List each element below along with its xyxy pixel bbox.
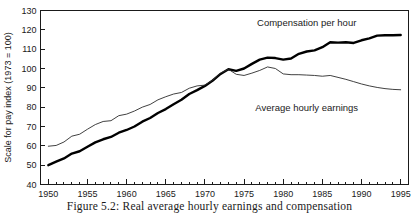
- series-annotation-average-hourly-earnings: Average hourly earnings: [255, 102, 358, 113]
- y-tick-label: 100: [21, 64, 36, 74]
- x-tick-label: 1995: [391, 189, 411, 199]
- x-tick-label: 1965: [156, 189, 176, 199]
- x-tick-label: 1980: [273, 189, 293, 199]
- x-tick-label: 1950: [38, 189, 58, 199]
- x-tick-label: 1985: [312, 189, 332, 199]
- x-tick-label: 1960: [117, 189, 137, 199]
- y-tick-label: 130: [21, 6, 36, 16]
- y-tick-label: 40: [26, 180, 36, 190]
- y-tick-label: 90: [26, 83, 36, 93]
- y-tick-label: 80: [26, 102, 36, 112]
- y-tick-label: 70: [26, 122, 36, 132]
- series-line-compensation-per-hour: [48, 35, 400, 165]
- y-tick-label: 120: [21, 25, 36, 35]
- x-tick-label: 1975: [234, 189, 254, 199]
- y-tick-label: 60: [26, 141, 36, 151]
- figure-container: 4050607080901001101201301950195519601965…: [0, 0, 419, 216]
- y-tick-label: 50: [26, 160, 36, 170]
- x-tick-label: 1970: [195, 189, 215, 199]
- figure-caption: Figure 5.2: Real average hourly earnings…: [0, 200, 419, 212]
- y-axis-title: Scale for pay index (1973 = 100): [3, 32, 13, 162]
- plot-frame: [41, 11, 409, 185]
- chart-canvas: 4050607080901001101201301950195519601965…: [0, 0, 419, 216]
- y-tick-label: 110: [22, 44, 36, 54]
- x-tick-label: 1955: [77, 189, 97, 199]
- x-tick-label: 1990: [352, 189, 372, 199]
- series-annotation-compensation-per-hour: Compensation per hour: [257, 17, 356, 28]
